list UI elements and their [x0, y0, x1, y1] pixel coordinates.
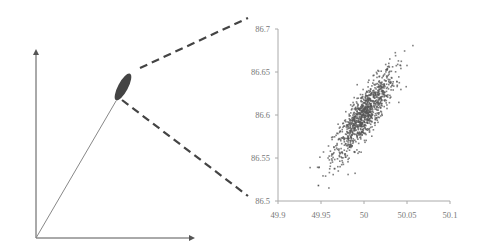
x-tick-label: 49.95 — [311, 210, 330, 220]
zoom-line-lower — [122, 100, 248, 196]
scatter-y-ticks: 86.786.6586.686.5586.5 — [251, 24, 278, 206]
x-tick-label: 50.05 — [397, 210, 416, 220]
y-tick-label: 86.65 — [251, 67, 270, 77]
scatter-x-ticks: 49.949.955050.0550.1 — [271, 201, 458, 220]
x-tick-label: 49.9 — [271, 210, 286, 220]
diagram-canvas: 86.786.6586.686.5586.5 49.949.955050.055… — [0, 0, 486, 249]
x-tick-label: 50.1 — [443, 210, 458, 220]
y-tick-label: 86.6 — [255, 110, 270, 120]
zoom-line-upper — [140, 18, 248, 68]
y-tick-label: 86.7 — [255, 24, 270, 34]
scatter-points — [309, 45, 413, 189]
y-tick-label: 86.5 — [255, 196, 270, 206]
x-tick-label: 50 — [360, 210, 369, 220]
y-tick-label: 86.55 — [251, 153, 270, 163]
scatter-plot: 86.786.6586.686.5586.5 49.949.955050.055… — [251, 24, 458, 220]
position-vector-line — [36, 101, 116, 238]
uncertainty-ellipse — [112, 71, 135, 102]
left-axes — [36, 52, 192, 238]
outlier-point — [318, 185, 320, 187]
